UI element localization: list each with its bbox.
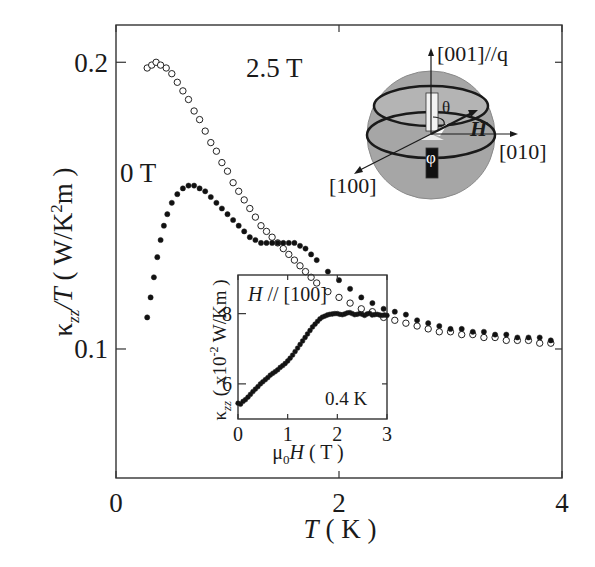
data-point — [297, 263, 303, 269]
data-point — [309, 252, 314, 257]
data-point — [225, 212, 230, 217]
data-point — [258, 240, 263, 245]
data-point — [258, 223, 264, 229]
y-axis-arrowhead — [510, 131, 518, 137]
data-point — [169, 200, 174, 205]
data-point — [213, 148, 219, 154]
data-point — [303, 246, 308, 251]
data-point — [548, 338, 553, 343]
inset-annotation-temperature: 0.4 K — [325, 388, 368, 409]
inset-tick-labels: 012368 — [222, 303, 392, 445]
data-point — [270, 240, 275, 245]
data-point — [403, 312, 408, 317]
data-point — [174, 79, 180, 85]
data-point — [236, 223, 241, 228]
data-point — [151, 275, 156, 280]
data-point — [196, 116, 202, 122]
data-point — [403, 320, 409, 326]
data-point — [263, 228, 269, 234]
data-point — [481, 329, 486, 334]
x-tick-label: 4 — [555, 488, 569, 518]
data-point — [145, 315, 150, 320]
data-point — [161, 223, 166, 228]
data-point — [280, 245, 286, 251]
inset-annotation-field-direction: H // [100] — [247, 283, 327, 305]
data-point — [169, 71, 175, 77]
y-axis-label: κzz/T ( W/K2m ) — [47, 167, 83, 336]
data-point — [381, 306, 386, 311]
data-point — [348, 286, 353, 291]
main-series — [144, 59, 554, 346]
data-point — [448, 326, 453, 331]
data-point — [197, 186, 202, 191]
series-2-5-t — [144, 59, 554, 346]
y-tick-label: 0.1 — [74, 334, 108, 364]
data-point — [155, 255, 160, 260]
diagram-label-x: [100] — [329, 173, 377, 198]
data-point — [302, 268, 308, 274]
data-point — [537, 340, 543, 346]
data-point — [392, 317, 398, 323]
orientation-diagram: [001]//q [010] [100] H θ φ — [329, 41, 547, 199]
data-point — [192, 183, 197, 188]
data-point — [437, 323, 442, 328]
data-point — [292, 240, 297, 245]
data-point — [425, 326, 431, 332]
data-point — [214, 200, 219, 205]
data-point — [219, 206, 224, 211]
data-point — [392, 309, 397, 314]
data-point — [241, 197, 247, 203]
data-point — [336, 294, 342, 300]
data-point — [297, 243, 302, 248]
inset-plot: 012368 H // [100] 0.4 K μ0H ( T ) κzz ( … — [207, 275, 392, 467]
y-tick-label: 0.2 — [74, 48, 108, 78]
data-point — [242, 229, 247, 234]
data-point — [224, 168, 230, 174]
diagram-label-phi: φ — [426, 148, 436, 167]
data-point — [414, 323, 420, 329]
diagram-label-field: H — [469, 116, 488, 141]
diagram-label-y: [010] — [499, 139, 547, 164]
data-point — [385, 313, 390, 318]
data-point — [208, 194, 213, 199]
data-point — [247, 205, 253, 211]
annotation-0T: 0 T — [120, 158, 157, 188]
data-point — [253, 237, 258, 242]
data-point — [526, 335, 531, 340]
data-point — [325, 269, 330, 274]
data-point — [180, 88, 186, 94]
data-point — [537, 335, 542, 340]
data-point — [158, 237, 163, 242]
data-point — [286, 240, 291, 245]
data-point — [515, 335, 520, 340]
data-point — [191, 108, 197, 114]
data-point — [165, 212, 170, 217]
data-point — [436, 329, 442, 335]
x-tick-label: 0 — [109, 488, 123, 518]
inset-x-axis-label: μ0H ( T ) — [272, 441, 344, 467]
data-point — [148, 295, 153, 300]
x-axis-label: T ( K ) — [304, 514, 377, 544]
x-tick-label: 0 — [233, 423, 243, 445]
data-point — [286, 251, 292, 257]
diagram-label-theta: θ — [442, 98, 450, 117]
data-point — [219, 159, 225, 165]
inset-y-axis-label: κzz ( x10-2 W/Km ) — [207, 279, 234, 420]
data-point — [252, 214, 258, 220]
data-point — [180, 186, 185, 191]
series-0-t — [145, 183, 554, 343]
data-point — [493, 332, 498, 337]
data-point — [185, 96, 191, 102]
data-point — [291, 257, 297, 263]
data-point — [230, 180, 236, 186]
x-tick-label: 3 — [382, 423, 392, 445]
svg-text:κzz/T ( W/K2m ): κzz/T ( W/K2m ) — [47, 167, 83, 336]
data-point — [264, 240, 269, 245]
data-point — [415, 318, 420, 323]
data-point — [247, 235, 252, 240]
data-point — [281, 240, 286, 245]
data-point — [175, 192, 180, 197]
data-point — [314, 258, 319, 263]
data-point — [504, 332, 509, 337]
data-point — [163, 65, 169, 71]
